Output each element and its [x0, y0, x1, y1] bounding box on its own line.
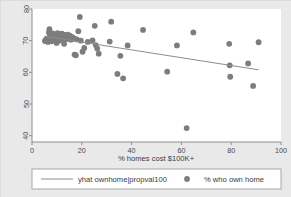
- y-tick-label: 50: [22, 100, 31, 108]
- data-point: [77, 14, 83, 20]
- chart-figure: 4050607080 020406080100 % homes cost $10…: [0, 0, 291, 197]
- data-point: [245, 61, 251, 67]
- legend-marker-swatch: [184, 176, 190, 182]
- y-tick-label: 80: [22, 5, 31, 13]
- plot-area-background: [32, 9, 281, 142]
- data-point: [108, 19, 114, 25]
- data-point: [117, 53, 123, 59]
- data-point: [164, 69, 170, 75]
- x-tick-label: 80: [227, 146, 235, 155]
- data-point: [94, 46, 100, 52]
- legend-label-yhat: yhat ownhome|propval100: [78, 175, 167, 184]
- data-point: [75, 28, 81, 34]
- data-point: [226, 41, 232, 47]
- data-point: [92, 23, 98, 29]
- data-point: [73, 52, 79, 58]
- data-point: [125, 43, 131, 49]
- data-point: [174, 43, 180, 49]
- data-point: [120, 75, 126, 81]
- data-point: [190, 30, 196, 36]
- y-tick-label: 60: [22, 68, 31, 76]
- data-point: [140, 27, 146, 33]
- data-point: [81, 45, 87, 51]
- x-tick-label: 100: [275, 146, 287, 155]
- data-point: [184, 125, 190, 131]
- data-point: [96, 51, 102, 57]
- data-point: [115, 71, 121, 77]
- data-point: [107, 39, 113, 45]
- x-axis-title: % homes cost $100K+: [118, 154, 195, 163]
- x-tick-label: 0: [30, 146, 34, 155]
- data-point: [256, 39, 262, 45]
- data-point: [90, 37, 96, 43]
- y-tick-label: 70: [22, 37, 31, 45]
- legend-label-ownhome: % who own home: [204, 175, 264, 184]
- x-tick-label: 20: [78, 146, 86, 155]
- y-tick-label: 40: [22, 132, 31, 140]
- scatter-plot-svg: 4050607080 020406080100 % homes cost $10…: [1, 1, 291, 197]
- data-point: [227, 74, 233, 80]
- data-point: [250, 83, 256, 89]
